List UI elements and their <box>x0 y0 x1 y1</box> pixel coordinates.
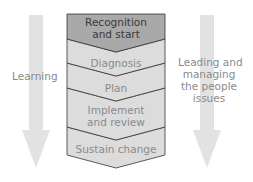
stage-label-line: Sustain change <box>67 143 165 155</box>
stage-recognition-and-start: Recognition and start <box>67 16 165 40</box>
leading-managing-label: Leading and managing the people issues <box>178 56 240 104</box>
stage-sustain-change: Sustain change <box>67 143 165 155</box>
label-line: Leading and <box>178 56 240 68</box>
stage-label-line: Recognition <box>67 16 165 28</box>
label-line: the people <box>178 80 240 92</box>
label-line: managing <box>178 68 240 80</box>
stage-label-line: and review <box>67 116 165 128</box>
left-down-arrow <box>22 15 50 168</box>
stage-label-line: Plan <box>67 82 165 94</box>
stage-implement-and-review: Implement and review <box>67 104 165 128</box>
stage-label-line: Implement <box>67 104 165 116</box>
label-line: issues <box>178 92 240 104</box>
stage-label-line: Diagnosis <box>67 57 165 69</box>
stage-plan: Plan <box>67 82 165 94</box>
stage-label-line: and start <box>67 28 165 40</box>
learning-label: Learning <box>12 70 58 82</box>
stage-diagnosis: Diagnosis <box>67 57 165 69</box>
